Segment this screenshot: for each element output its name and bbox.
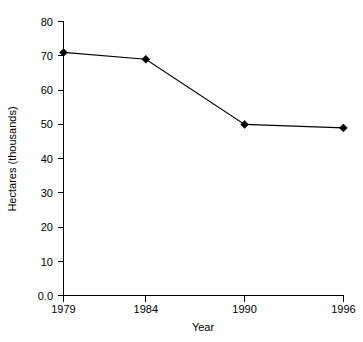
x-tick-label-1990: 1990 [232, 303, 256, 315]
x-tick-label-1979: 1979 [51, 303, 75, 315]
y-tick-label-50: 50 [41, 118, 53, 130]
y-tick-label-80: 80 [41, 16, 53, 28]
y-tick-label-20: 20 [41, 221, 53, 233]
y-tick-label-70: 70 [41, 50, 53, 62]
x-axis-title: Year [192, 321, 215, 333]
chart-background [0, 0, 363, 342]
y-tick-label-0: 0.0 [38, 290, 53, 302]
line-chart: 80 70 60 50 40 30 20 10 0.0 1979 1984 19… [0, 0, 363, 342]
x-tick-label-1996: 1996 [331, 303, 355, 315]
y-axis-title: Hectares (thousands) [6, 106, 18, 211]
x-tick-label-1984: 1984 [134, 303, 158, 315]
y-tick-label-40: 40 [41, 153, 53, 165]
chart-canvas: 80 70 60 50 40 30 20 10 0.0 1979 1984 19… [0, 0, 363, 342]
y-tick-label-10: 10 [41, 256, 53, 268]
y-tick-label-60: 60 [41, 84, 53, 96]
y-tick-label-30: 30 [41, 187, 53, 199]
